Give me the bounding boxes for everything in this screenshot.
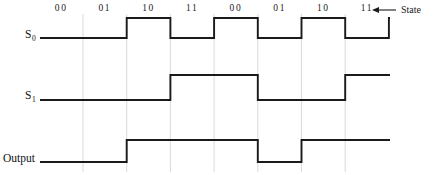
signal-label-output: Output bbox=[3, 152, 35, 164]
signal-label-s1: S1 bbox=[25, 89, 35, 103]
state-label: 00 bbox=[41, 3, 81, 14]
state-label: 01 bbox=[85, 3, 125, 14]
waveform-canvas bbox=[0, 0, 436, 175]
waveform-output bbox=[40, 140, 390, 162]
signal-label-s1-text: S bbox=[25, 89, 31, 101]
state-label: 10 bbox=[303, 3, 343, 14]
waveform-s1 bbox=[40, 75, 390, 100]
state-label: 11 bbox=[347, 3, 387, 14]
signal-label-s0-sub: 0 bbox=[32, 34, 36, 43]
waveform-s0 bbox=[40, 18, 390, 38]
state-label: 10 bbox=[129, 3, 169, 14]
state-label: 01 bbox=[260, 3, 300, 14]
state-axis-label: State bbox=[401, 4, 421, 15]
waveform-group bbox=[40, 18, 390, 162]
signal-label-output-text: Output bbox=[3, 152, 35, 164]
signal-label-s0: S0 bbox=[25, 28, 35, 42]
signal-label-s0-text: S bbox=[25, 28, 31, 40]
timing-diagram: 0001101100011011 S0 S1 Output State bbox=[0, 0, 436, 175]
state-label: 11 bbox=[172, 3, 212, 14]
signal-label-s1-sub: 1 bbox=[32, 95, 36, 104]
state-label: 00 bbox=[216, 3, 256, 14]
